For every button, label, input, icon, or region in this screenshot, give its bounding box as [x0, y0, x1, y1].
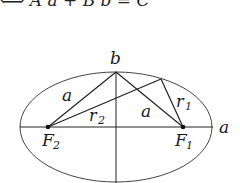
label-r2-sub: 2	[97, 114, 105, 127]
label-f1-sub: 1	[186, 139, 193, 152]
label-r1-sub: 1	[185, 100, 192, 113]
label-a-axis: a	[219, 117, 229, 137]
focus-f1-point	[181, 125, 186, 130]
focus-f2-point	[46, 125, 51, 130]
label-r1: r	[176, 92, 185, 111]
label-a-right: a	[141, 101, 151, 121]
label-f2-sub: 2	[52, 139, 60, 152]
label-b: b	[110, 48, 121, 68]
ellipse-diagram: b a a a r 2 r 1 F 2 F 1	[0, 0, 240, 183]
line-f2-to-b	[48, 72, 116, 127]
label-r2: r	[89, 106, 98, 125]
label-a-left: a	[62, 85, 72, 105]
